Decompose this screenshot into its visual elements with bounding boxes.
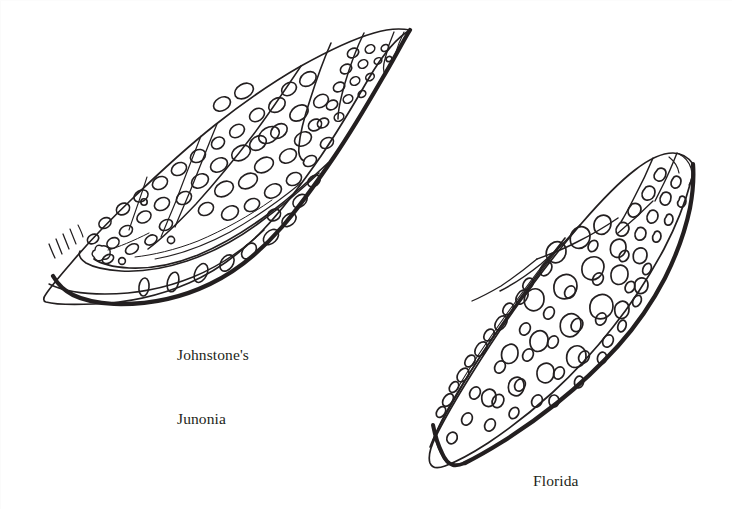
junonia-columellar-fold-4 bbox=[70, 229, 76, 244]
label-florida-volute: Florida Volute bbox=[533, 427, 578, 509]
junonia-columellar-fold-5 bbox=[78, 225, 83, 237]
volute-shadow-edge bbox=[465, 164, 693, 463]
volute-body-outline bbox=[429, 153, 693, 468]
seashell-illustration bbox=[1, 1, 732, 509]
label-volute-line1: Florida bbox=[533, 470, 578, 491]
volute-shoulder-step-1 bbox=[537, 218, 618, 259]
florida-volute-shell bbox=[429, 153, 693, 468]
illustration-page: Johnstone's Junonia Florida Volute bbox=[0, 0, 732, 509]
label-junonia-line2: Junonia bbox=[177, 408, 249, 429]
junonia-columellar-fold-3 bbox=[63, 234, 69, 249]
junonia-suture-1 bbox=[299, 43, 331, 161]
volute-shoulder-step-3 bbox=[472, 259, 537, 301]
label-junonia-line1: Johnstone's bbox=[177, 344, 249, 365]
junonia-columellar-fold-1 bbox=[49, 244, 55, 258]
label-johnstones-junonia: Johnstone's Junonia bbox=[177, 301, 249, 472]
johnstones-junonia-shell bbox=[44, 29, 410, 304]
junonia-columellar-fold-2 bbox=[56, 239, 62, 254]
junonia-shoulder-curve bbox=[148, 66, 301, 249]
junonia-spot-pattern bbox=[86, 43, 393, 297]
